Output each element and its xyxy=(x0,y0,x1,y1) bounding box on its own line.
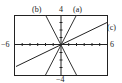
label-xmin: −6 xyxy=(1,41,10,49)
label-xmax: 6 xyxy=(110,41,114,49)
label-ymax: 4 xyxy=(59,6,63,14)
label-b: (b) xyxy=(32,6,41,14)
label-a: (a) xyxy=(73,6,82,14)
label-ymin: −4 xyxy=(56,76,65,83)
label-c: (c) xyxy=(107,24,116,32)
